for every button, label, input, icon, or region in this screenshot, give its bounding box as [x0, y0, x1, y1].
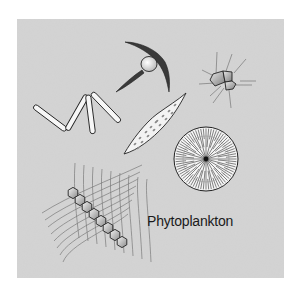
phytoplankton-illustration — [0, 0, 299, 293]
cell-body — [141, 57, 157, 72]
disc-center — [204, 157, 209, 162]
centric-diatom — [174, 127, 238, 191]
caption-label: Phytoplankton — [147, 213, 233, 229]
polygonal-cell — [223, 71, 232, 82]
hexagonal-cell — [117, 236, 127, 247]
